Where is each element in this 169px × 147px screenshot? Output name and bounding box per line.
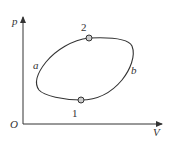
cycle-loop bbox=[36, 38, 133, 100]
pv-diagram: p V O 2 1 a b bbox=[0, 0, 169, 147]
state-point-1 bbox=[78, 97, 84, 103]
path-b-label: b bbox=[131, 64, 137, 76]
point-1-label: 1 bbox=[72, 107, 78, 119]
path-a-label: a bbox=[33, 59, 39, 71]
point-2-label: 2 bbox=[81, 21, 87, 33]
origin-label: O bbox=[10, 118, 18, 130]
diagram-canvas: p V O 2 1 a b bbox=[0, 0, 169, 147]
state-point-2 bbox=[86, 35, 92, 41]
y-axis-label: p bbox=[11, 15, 18, 27]
x-axis-label: V bbox=[153, 126, 161, 138]
